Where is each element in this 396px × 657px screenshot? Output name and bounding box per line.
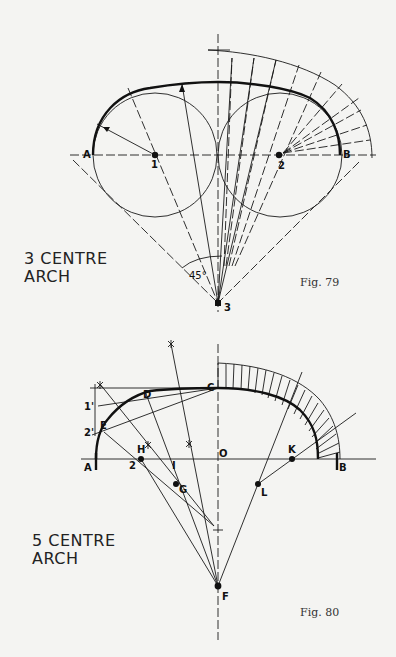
- fig80-label-d: D: [143, 389, 151, 400]
- fig80-centre-2: [138, 456, 144, 462]
- fig79-centre-1: [152, 152, 158, 158]
- fig80-title-line1: 5 CENTRE: [32, 531, 116, 550]
- fig80-line-l-k: [258, 413, 356, 484]
- fig80-line-l-f: [218, 484, 258, 586]
- fig79-centre-2: [276, 152, 282, 158]
- fig79-arrowhead-left: [103, 127, 110, 132]
- fig80-line-l-up: [258, 372, 302, 484]
- fig79-label-3: 3: [224, 302, 231, 313]
- fig79-caption: Fig. 79: [300, 276, 339, 289]
- fig79-arrowhead: [179, 84, 185, 92]
- fig80-centre-f: [215, 583, 222, 590]
- fig80-label-f: F: [222, 591, 229, 602]
- arch-construction-diagram: A B 1 2 3 45° 3 CENTRE ARCH Fig. 79: [0, 0, 396, 657]
- fig80-line-2-f: [141, 459, 218, 586]
- fig80-label-o: O: [219, 448, 228, 459]
- fig79-three-centre-arch: A B 1 2 3 45° 3 CENTRE ARCH Fig. 79: [24, 34, 376, 313]
- fig79-label-1: 1: [151, 159, 158, 170]
- fig79-voussoir-lines-2: [283, 84, 370, 153]
- fig79-tangent-left: [73, 160, 218, 303]
- fig80-label-2prime: 2': [84, 427, 94, 438]
- fig79-label-b: B: [343, 149, 351, 160]
- fig79-label-a: A: [83, 149, 91, 160]
- fig80-label-2: 2: [129, 460, 136, 471]
- fig80-caption: Fig. 80: [300, 606, 339, 619]
- fig80-label-g: G: [179, 484, 187, 495]
- fig80-line-2prime-c: [92, 388, 218, 435]
- fig80-line-x-i: [100, 384, 214, 526]
- fig80-intrados-curve: [96, 388, 318, 459]
- fig80-label-e: E: [100, 420, 107, 431]
- fig80-centre-k: [289, 456, 295, 462]
- fig80-label-i: I: [172, 460, 176, 471]
- fig79-label-2: 2: [278, 160, 285, 171]
- fig80-voussoir-hatching: [226, 364, 340, 458]
- fig79-angle-arc: [182, 256, 222, 268]
- fig80-label-1prime: 1': [84, 401, 94, 412]
- fig79-centre-3: [215, 300, 221, 306]
- fig80-label-c: C: [207, 382, 214, 393]
- fig80-title-line2: ARCH: [32, 549, 78, 568]
- fig80-bisector-cf: [171, 344, 218, 586]
- fig79-title-line2: ARCH: [24, 267, 70, 286]
- fig80-label-b: B: [339, 462, 347, 473]
- fig79-angle-label: 45°: [189, 270, 207, 281]
- fig79-intrados-curve: [93, 82, 340, 155]
- fig80-five-centre-arch: A B C D E O F G H I K L 2 1' 2' 5 CENTRE…: [32, 340, 376, 640]
- fig80-label-k: K: [288, 444, 297, 455]
- fig80-label-a: A: [84, 462, 92, 473]
- fig80-label-h: H: [137, 444, 145, 455]
- fig80-label-l: L: [261, 487, 268, 498]
- fig79-title-line1: 3 CENTRE: [24, 249, 108, 268]
